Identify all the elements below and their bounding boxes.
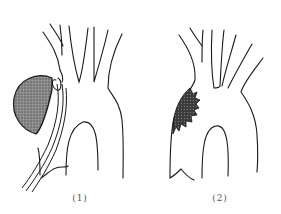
branch-vessel [94,27,108,82]
panel-1-drawing [38,24,123,178]
aorta-inner-arch [202,126,228,178]
figure: (1) (2) [0,0,281,214]
branch-vessel [190,28,202,46]
branch-vessel [211,30,224,88]
branch-vessel [202,30,203,62]
aorta-inner-arch [66,122,98,175]
branch-vessel [69,26,88,82]
aorta-diagram [0,0,281,214]
aorta-left-wall [43,32,60,70]
aneurysm-bulge [14,76,52,134]
branch-vessel [222,35,236,86]
aorta-right-wall [108,34,123,178]
lesion-spiky [173,88,200,134]
panel-label-1: (1) [60,193,100,203]
panel-label-2: (2) [200,193,240,203]
aorta-right-wall [241,58,263,172]
